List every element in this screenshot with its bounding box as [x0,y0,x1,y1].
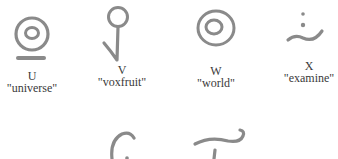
glyph-label-v: V "voxfruit" [92,64,152,88]
circle-on-stem-with-hook-icon [104,8,128,61]
glyph-word: "world" [186,77,246,89]
concentric-circles-icon [198,11,234,45]
glyph-word: "universe" [2,82,62,94]
glyph-label-u: U "universe" [2,70,62,94]
curl-partial-icon [112,133,134,159]
glyph-label-w: W "world" [186,65,246,89]
glyph-label-x: X "examine" [276,60,338,84]
concentric-circles-with-underline-icon [16,18,48,58]
two-dots-over-wave-icon [288,12,322,40]
t-shape-partial-icon [195,130,244,159]
glyph-word: "voxfruit" [92,76,152,88]
glyph-word: "examine" [276,72,338,84]
